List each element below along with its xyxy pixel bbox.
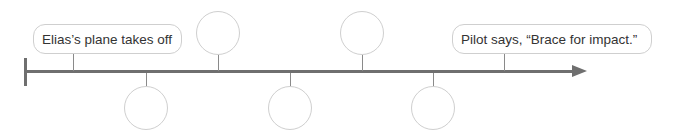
end-event-text: Pilot says, “Brace for impact.” (461, 32, 637, 47)
event-4-circle[interactable] (268, 86, 312, 130)
event-2-connector (146, 73, 147, 87)
event-3-circle[interactable] (340, 11, 384, 55)
timeline-diagram: Elias’s plane takes off Pilot says, “Bra… (0, 0, 676, 140)
event-3-connector (362, 55, 363, 71)
start-label-connector (73, 54, 74, 71)
event-5-circle[interactable] (411, 86, 455, 130)
timeline-axis (25, 70, 575, 73)
end-event-label: Pilot says, “Brace for impact.” (452, 24, 652, 54)
arrow-head-icon (572, 65, 587, 77)
end-label-connector (504, 54, 505, 71)
start-event-text: Elias’s plane takes off (42, 32, 172, 47)
start-event-label: Elias’s plane takes off (33, 24, 182, 54)
event-4-connector (290, 73, 291, 87)
event-2-circle[interactable] (124, 86, 168, 130)
event-5-connector (433, 73, 434, 87)
event-1-connector (218, 55, 219, 71)
event-1-circle[interactable] (196, 11, 240, 55)
